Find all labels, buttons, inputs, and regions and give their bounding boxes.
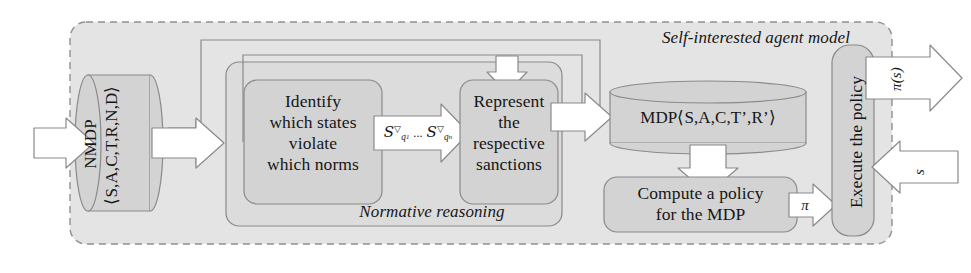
pi-of-s-wrapper: π(s) (888, 49, 910, 109)
execute-label: Execute the policy (847, 47, 867, 237)
represent-box (460, 80, 558, 204)
state-label: s (911, 152, 928, 192)
nmdp-label-line2: ⟨S,A,C,T,R,N,D⟩ (102, 45, 124, 245)
mdp-cylinder (610, 81, 806, 154)
nmdp-label-line1: NMDP (81, 44, 101, 244)
diagram-canvas: Self-interested agent model Normative re… (0, 0, 971, 273)
state-label-wrapper: s (911, 152, 933, 192)
identify-box (244, 80, 382, 204)
compute-box (604, 177, 797, 232)
pi-of-s-label: π(s) (888, 49, 905, 109)
diagram-graphics (0, 0, 971, 273)
execute-label-wrapper: Execute the policy (847, 47, 869, 237)
